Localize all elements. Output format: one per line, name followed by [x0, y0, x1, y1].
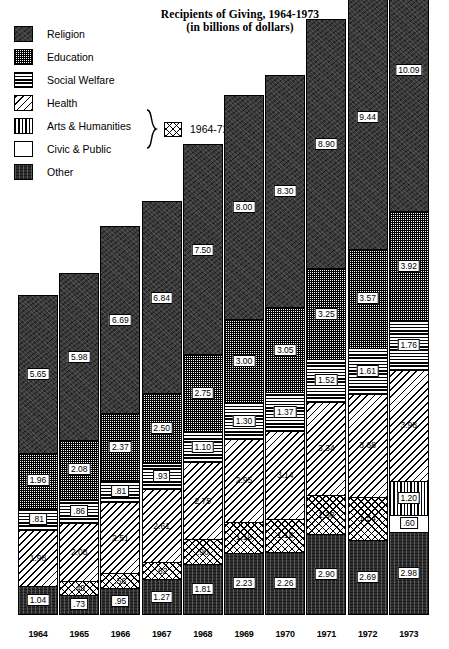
bar-group-1970[interactable]: 8.303.051.373.141.182.26 [265, 75, 305, 615]
x-axis-label-1973: 1973 [389, 629, 429, 639]
segment-value-1969-social: 1.30 [233, 415, 256, 427]
bar-segment-1967-health[interactable]: 2.61 [142, 489, 182, 562]
bar-segment-1970-health[interactable]: 3.14 [265, 431, 305, 519]
bar-segment-1965-religion[interactable]: 5.98 [59, 273, 99, 440]
bar-segment-1969-education[interactable]: 3.00 [224, 319, 264, 403]
bar-segment-1967-social[interactable]: .93 [142, 463, 182, 489]
bar-stack-1971: 8.903.251.523.341.382.90 [306, 19, 346, 615]
bar-segment-1973-education[interactable]: 3.92 [389, 211, 429, 321]
bar-group-1971[interactable]: 8.903.251.523.341.382.90 [306, 19, 346, 615]
bar-segment-1968-education[interactable]: 2.75 [183, 354, 223, 431]
segment-value-1966-education: 2.37 [109, 441, 132, 453]
bar-segment-1964-education[interactable]: 1.96 [18, 453, 58, 508]
x-axis-label-1964: 1964 [18, 629, 58, 639]
segment-value-1971-education: 3.25 [315, 308, 338, 320]
segment-divider [143, 562, 181, 563]
bar-segment-1968-other[interactable]: 1.81 [183, 564, 223, 615]
segment-value-1970-social: 1.37 [274, 406, 297, 418]
bar-group-1967[interactable]: 6.842.50.932.61.621.27 [142, 201, 182, 615]
bar-segment-1973-other[interactable]: 2.98 [389, 532, 429, 615]
bar-segment-1968-combo[interactable]: .90 [183, 539, 223, 564]
bar-segment-1966-religion[interactable]: 6.69 [100, 226, 140, 413]
bar-segment-1973-social[interactable]: 1.76 [389, 320, 429, 369]
segment-divider [349, 540, 387, 541]
bar-stack-1970: 8.303.051.373.141.182.26 [265, 75, 305, 615]
bar-segment-1972-combo[interactable]: 1.54 [348, 497, 388, 540]
bar-segment-1968-health[interactable]: 2.75 [183, 462, 223, 539]
segment-value-1964-health: 1.98 [30, 554, 47, 563]
bar-segment-1971-social[interactable]: 1.52 [306, 359, 346, 402]
segment-divider [184, 564, 222, 565]
bar-segment-1971-health[interactable]: 3.34 [306, 402, 346, 496]
segment-value-1968-other: 1.81 [192, 583, 215, 595]
segment-value-1966-social: .81 [111, 485, 129, 497]
bar-stack-1969: 8.003.001.302.951.102.23 [224, 95, 264, 615]
segment-value-1973-health: 3.98 [401, 421, 418, 430]
segment-divider [60, 523, 98, 524]
bar-segment-1973-health[interactable]: 3.98 [389, 370, 429, 481]
bar-stack-1968: 7.502.751.102.75.901.81 [183, 144, 223, 615]
bar-segment-1969-health[interactable]: 2.95 [224, 439, 264, 522]
bar-segment-1965-combo[interactable]: .49 [59, 581, 99, 595]
bar-group-1966[interactable]: 6.692.37.812.51.56.95 [100, 226, 140, 615]
bar-segment-1966-social[interactable]: .81 [100, 480, 140, 503]
bar-segment-1964-other[interactable]: 1.04 [18, 586, 58, 615]
bar-segment-1967-combo[interactable]: .62 [142, 562, 182, 579]
bar-segment-1967-education[interactable]: 2.50 [142, 393, 182, 463]
bar-segment-1969-social[interactable]: 1.30 [224, 403, 264, 439]
bar-segment-1970-other[interactable]: 2.26 [265, 552, 305, 615]
bar-group-1964[interactable]: 5.651.96.811.981.04 [18, 295, 58, 615]
segment-value-1968-health: 2.75 [195, 496, 212, 505]
segment-value-1972-health: 3.68 [359, 441, 376, 450]
bar-segment-1971-religion[interactable]: 8.90 [306, 19, 346, 268]
bar-group-1973[interactable]: 10.093.921.763.981.20.602.98 [389, 0, 429, 615]
bar-segment-1971-education[interactable]: 3.25 [306, 268, 346, 359]
bar-segment-1972-social[interactable]: 1.61 [348, 348, 388, 393]
bar-group-1972[interactable]: 9.443.571.613.681.542.69 [348, 0, 388, 615]
segment-value-1964-religion: 5.65 [27, 368, 50, 380]
bar-segment-1965-other[interactable]: .73 [59, 595, 99, 615]
segment-value-1971-health: 3.34 [318, 444, 335, 453]
segment-value-1971-other: 2.90 [315, 568, 338, 580]
bar-segment-1969-other[interactable]: 2.23 [224, 553, 264, 615]
bar-segment-1971-combo[interactable]: 1.38 [306, 495, 346, 534]
bar-group-1968[interactable]: 7.502.751.102.75.901.81 [183, 144, 223, 615]
bar-segment-1966-education[interactable]: 2.37 [100, 413, 140, 479]
bar-segment-1969-religion[interactable]: 8.00 [224, 95, 264, 319]
bar-segment-1967-religion[interactable]: 6.84 [142, 201, 182, 393]
bar-segment-1968-religion[interactable]: 7.50 [183, 144, 223, 354]
bar-segment-1964-health[interactable]: 1.98 [18, 530, 58, 585]
bar-segment-1964-religion[interactable]: 5.65 [18, 295, 58, 453]
bar-segment-1973-religion[interactable]: 10.09 [389, 0, 429, 211]
bar-segment-1965-education[interactable]: 2.08 [59, 440, 99, 498]
bar-segment-1964-social[interactable]: .81 [18, 508, 58, 531]
bar-segment-1972-health[interactable]: 3.68 [348, 394, 388, 497]
bar-segment-1966-health[interactable]: 2.51 [100, 502, 140, 572]
bar-segment-1966-other[interactable]: .95 [100, 588, 140, 615]
bar-segment-1972-education[interactable]: 3.57 [348, 249, 388, 349]
bar-segment-1972-religion[interactable]: 9.44 [348, 0, 388, 249]
bar-segment-1970-religion[interactable]: 8.30 [265, 75, 305, 307]
bar-segment-1965-social[interactable]: .86 [59, 499, 99, 523]
segment-divider [143, 579, 181, 580]
bar-segment-1965-health[interactable]: 2.08 [59, 523, 99, 581]
bar-group-1969[interactable]: 8.003.001.302.951.102.23 [224, 95, 264, 615]
bar-segment-1967-other[interactable]: 1.27 [142, 579, 182, 615]
segment-value-1970-religion: 8.30 [274, 185, 297, 197]
bar-group-1965[interactable]: 5.982.08.862.08.49.73 [59, 273, 99, 615]
bar-segment-1973-arts[interactable]: 1.20 [389, 481, 429, 515]
bar-segment-1970-combo[interactable]: 1.18 [265, 519, 305, 552]
bar-segment-1968-social[interactable]: 1.10 [183, 431, 223, 462]
bar-segment-1971-other[interactable]: 2.90 [306, 534, 346, 615]
segment-value-1965-social: .86 [70, 505, 88, 517]
segment-divider [266, 307, 304, 308]
segment-value-1973-arts: 1.20 [398, 492, 421, 504]
segment-value-1973-social: 1.76 [398, 339, 421, 351]
bar-segment-1970-social[interactable]: 1.37 [265, 392, 305, 430]
segment-divider [143, 489, 181, 490]
bar-segment-1973-civic[interactable]: .60 [389, 515, 429, 532]
bar-segment-1970-education[interactable]: 3.05 [265, 307, 305, 392]
bar-segment-1969-combo[interactable]: 1.10 [224, 522, 264, 553]
bar-segment-1966-combo[interactable]: .56 [100, 573, 140, 589]
bar-segment-1972-other[interactable]: 2.69 [348, 540, 388, 615]
